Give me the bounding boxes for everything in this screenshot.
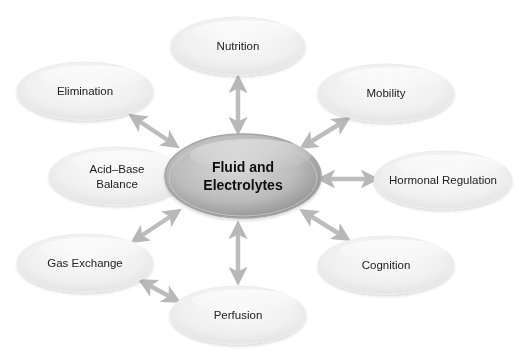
node-label: Nutrition <box>217 40 260 52</box>
concept-node-mobility: Mobility <box>318 64 454 122</box>
concept-node-perfusion: Perfusion <box>170 286 306 344</box>
node-label: Perfusion <box>214 309 263 321</box>
central-concept: Fluid andElectrolytes <box>165 134 321 218</box>
double-arrow-icon <box>133 117 175 145</box>
concept-node-cognition: Cognition <box>318 236 454 294</box>
node-label: Cognition <box>362 259 411 271</box>
node-label: Gas Exchange <box>47 257 122 269</box>
node-label: Hormonal Regulation <box>389 174 497 186</box>
concept-node-hormonal: Hormonal Regulation <box>374 151 512 209</box>
node-label: Balance <box>96 178 138 190</box>
concept-map-diagram: NutritionEliminationMobilityAcid–BaseBal… <box>0 0 519 352</box>
node-label: Mobility <box>367 87 406 99</box>
concept-node-gas-exchange: Gas Exchange <box>17 234 153 292</box>
node-label: Acid–Base <box>90 163 145 175</box>
center-label: Electrolytes <box>203 177 283 193</box>
concept-node-elimination: Elimination <box>17 62 153 120</box>
center-label: Fluid and <box>212 159 274 175</box>
double-arrow-icon <box>135 212 177 240</box>
double-arrow-icon <box>143 282 176 300</box>
concept-node-nutrition: Nutrition <box>171 17 305 75</box>
double-arrow-icon <box>304 120 346 146</box>
center-node: Fluid andElectrolytes <box>165 134 321 218</box>
node-label: Elimination <box>57 85 113 97</box>
double-arrow-icon <box>304 212 346 238</box>
